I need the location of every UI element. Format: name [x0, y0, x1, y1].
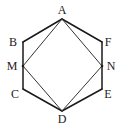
point-label-F: F	[105, 35, 112, 49]
point-label-D: D	[58, 112, 67, 126]
inner-quadrilateral	[23, 19, 102, 111]
point-label-N: N	[107, 59, 116, 73]
hexagon-diagram: ABMCDENF	[0, 0, 122, 131]
segment-DN	[62, 66, 102, 111]
point-label-E: E	[104, 87, 111, 101]
segment-MD	[23, 66, 62, 111]
point-label-M: M	[7, 59, 18, 73]
segment-AM	[23, 19, 62, 66]
edge-DE	[62, 89, 102, 111]
hexagon-edges	[23, 19, 102, 111]
edge-FA	[62, 19, 102, 42]
point-label-B: B	[9, 35, 17, 49]
point-label-A: A	[58, 3, 67, 17]
point-dot-M	[22, 65, 25, 68]
point-label-C: C	[11, 87, 19, 101]
edge-AB	[23, 19, 62, 42]
edge-CD	[23, 89, 62, 111]
segment-NA	[62, 19, 102, 66]
point-dot-N	[101, 65, 104, 68]
